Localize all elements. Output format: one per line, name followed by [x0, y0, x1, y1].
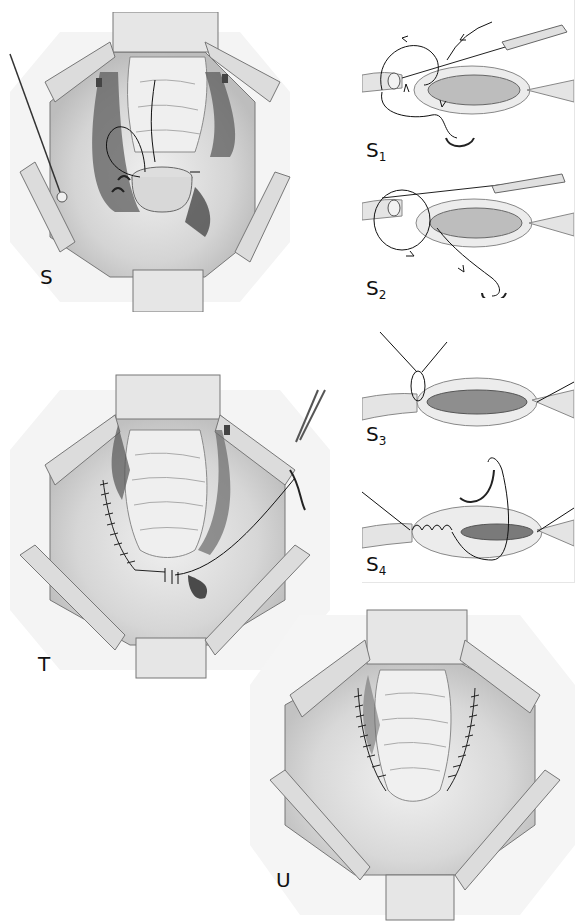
suture-step-s3-illustration — [362, 330, 574, 440]
inset-label-s2: S2 — [366, 276, 386, 302]
inset-step-s1: S1 — [362, 20, 574, 150]
inset-step-s3: S3 — [362, 330, 574, 440]
inset-step-s2: S2 — [362, 168, 574, 298]
panel-label-t: T — [38, 652, 50, 676]
suture-step-s4-illustration — [362, 450, 574, 580]
inset-label-s4: S4 — [366, 552, 386, 578]
panel-label-s: S — [40, 265, 53, 289]
panel-label-u: U — [276, 868, 291, 892]
suture-step-s2-illustration — [362, 168, 574, 298]
inset-label-s1: S1 — [366, 138, 386, 164]
illustration-panel-u: U — [240, 605, 577, 923]
page-header-cropped — [8, 0, 76, 4]
inset-step-s4: S4 — [362, 450, 574, 580]
inset-label-s3: S3 — [366, 422, 386, 448]
inset-steps-container: S1 S2 — [362, 0, 575, 583]
suture-step-s1-illustration — [362, 20, 574, 150]
illustration-panel-s: S — [0, 12, 300, 312]
